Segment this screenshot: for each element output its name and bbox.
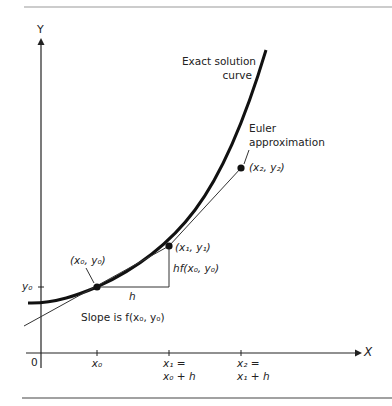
- origin-label: 0: [31, 356, 38, 369]
- euler-segment-2: [169, 168, 241, 246]
- exact-curve-label-line2: curve: [170, 69, 252, 82]
- euler-label-line2: approximation: [249, 136, 325, 149]
- point0-leader: [86, 268, 94, 283]
- point-x2-y2: [237, 164, 244, 171]
- x2-tick-label-line1: x₂ =: [237, 357, 260, 370]
- y-axis-label: Y: [37, 23, 44, 36]
- y0-tick-label: y₀: [22, 280, 32, 293]
- x1-tick-label-line2: x₀ + h: [163, 370, 196, 383]
- point2-label: (x₂, y₂): [249, 161, 285, 174]
- y-axis-arrow-icon: [38, 38, 45, 45]
- x1-tick-label-line1: x₁ =: [163, 357, 186, 370]
- x-axis-arrow-icon: [355, 350, 362, 357]
- x-axis-label: X: [364, 346, 372, 359]
- x0-tick-label: x₀: [84, 357, 110, 370]
- point1-label: (x₁, y₁): [175, 241, 211, 254]
- point-x1-y1: [165, 242, 172, 249]
- exact-solution-curve: [28, 50, 266, 303]
- point-x0-y0: [93, 283, 100, 290]
- slope-label: Slope is f(x₀, y₀): [81, 311, 165, 324]
- rise-label: hf(x₀, y₀): [173, 262, 219, 275]
- euler-label-line1: Euler: [249, 122, 276, 135]
- step-h-label: h: [129, 290, 136, 303]
- x2-tick-label-line2: x₁ + h: [237, 370, 270, 383]
- exact-curve-label-line1: Exact solution: [170, 55, 256, 68]
- point0-label: (x₀, y₀): [70, 254, 106, 267]
